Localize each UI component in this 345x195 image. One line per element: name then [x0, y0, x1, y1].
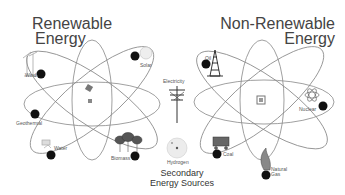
non-renewable-title-line1: Non-Renewable: [205, 16, 335, 31]
label-geothermal: Geothermal: [16, 120, 42, 126]
sun-icon: [140, 47, 152, 59]
secondary-title: Secondary Energy Sources: [148, 168, 216, 188]
renewable-title-line2: Energy: [32, 31, 112, 46]
biomass-trees-icon: [115, 133, 142, 153]
label-wind: Wind: [25, 72, 36, 78]
secondary-title-line2: Energy Sources: [148, 178, 216, 188]
label-solar: Solar: [140, 62, 152, 68]
label-oil: Oil: [205, 55, 211, 61]
non-renewable-nucleus-icon: [257, 96, 265, 104]
renewable-title: Renewable Energy: [32, 16, 112, 46]
renewable-title-line1: Renewable: [32, 16, 112, 31]
renewable-nucleus-icon: [85, 84, 93, 103]
label-water: Water: [54, 145, 67, 151]
label-electricity: Electricity: [163, 78, 184, 84]
nuclear-atom-icon: [305, 87, 319, 102]
hydrogen-atom-icon: [167, 138, 187, 158]
non-renewable-title: Non-Renewable Energy: [205, 16, 335, 46]
water-icon: [42, 140, 51, 148]
natural-gas-flame-icon: [261, 148, 270, 170]
power-pole-icon: [169, 86, 185, 123]
orbit-horizontal: [194, 80, 334, 124]
secondary-title-line1: Secondary: [148, 168, 216, 178]
label-hydrogen: Hydrogen: [167, 159, 189, 165]
label-nuclear: Nuclear: [299, 106, 316, 112]
label-natural-gas: Natural Gas: [271, 167, 287, 177]
coal-cart-icon: [213, 137, 229, 150]
label-coal: Coal: [223, 151, 233, 157]
non-renewable-title-line2: Energy: [205, 31, 335, 46]
label-biomass: Biomass: [111, 155, 130, 161]
